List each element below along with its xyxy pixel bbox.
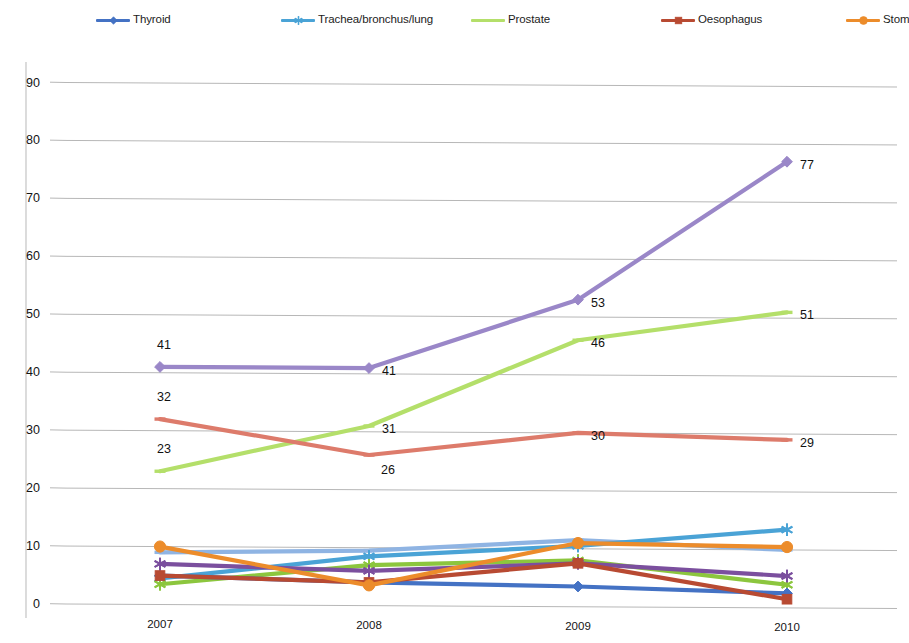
- x-axis-tick-label: 2007: [120, 618, 200, 630]
- data-point-label: 77: [800, 158, 814, 172]
- data-point: [572, 537, 583, 548]
- y-axis-tick-label: 80: [10, 133, 40, 147]
- x-axis-tick-label: 2009: [538, 620, 618, 632]
- x-axis-tick-label: 2010: [747, 621, 827, 633]
- data-point: [155, 362, 166, 373]
- data-point-label: 23: [157, 442, 171, 456]
- data-point-label: 53: [591, 296, 605, 310]
- y-axis-tick-label: 60: [10, 249, 40, 263]
- data-point-label: 32: [157, 390, 171, 404]
- series-line: [160, 312, 787, 471]
- y-axis-tick-label: 20: [10, 481, 40, 495]
- data-point: [782, 594, 792, 604]
- plot-area: 0102030405060708090200720082009201041415…: [0, 0, 909, 643]
- series-prostate: [155, 312, 793, 471]
- data-point-label: 31: [382, 422, 396, 436]
- line-chart: ThyroidTrachea/bronchus/lungProstateOeso…: [0, 0, 909, 643]
- y-axis-tick-label: 40: [10, 365, 40, 379]
- data-point-label: 41: [157, 338, 171, 352]
- data-point-label: 30: [591, 429, 605, 443]
- data-point: [573, 581, 584, 592]
- y-axis-tick-label: 30: [10, 423, 40, 437]
- y-axis-tick-label: 50: [10, 307, 40, 321]
- data-point: [363, 580, 374, 591]
- data-point-label: 26: [381, 463, 395, 477]
- data-point-label: 46: [591, 336, 605, 350]
- plot-canvas: [0, 0, 909, 643]
- series-breast: [155, 156, 793, 373]
- data-point-label: 41: [382, 364, 396, 378]
- y-axis-tick-label: 70: [10, 191, 40, 205]
- data-point: [781, 541, 792, 552]
- data-point-label: 29: [800, 436, 814, 450]
- data-point: [155, 571, 165, 581]
- x-axis-tick-label: 2008: [329, 619, 409, 631]
- y-axis-tick-label: 10: [10, 539, 40, 553]
- data-point-label: 51: [800, 308, 814, 322]
- series-line: [160, 162, 787, 368]
- data-point: [573, 559, 583, 569]
- y-axis-tick-label: 90: [10, 76, 40, 90]
- data-point: [154, 541, 165, 552]
- data-point: [364, 363, 375, 374]
- y-axis-tick-label: 0: [10, 597, 40, 611]
